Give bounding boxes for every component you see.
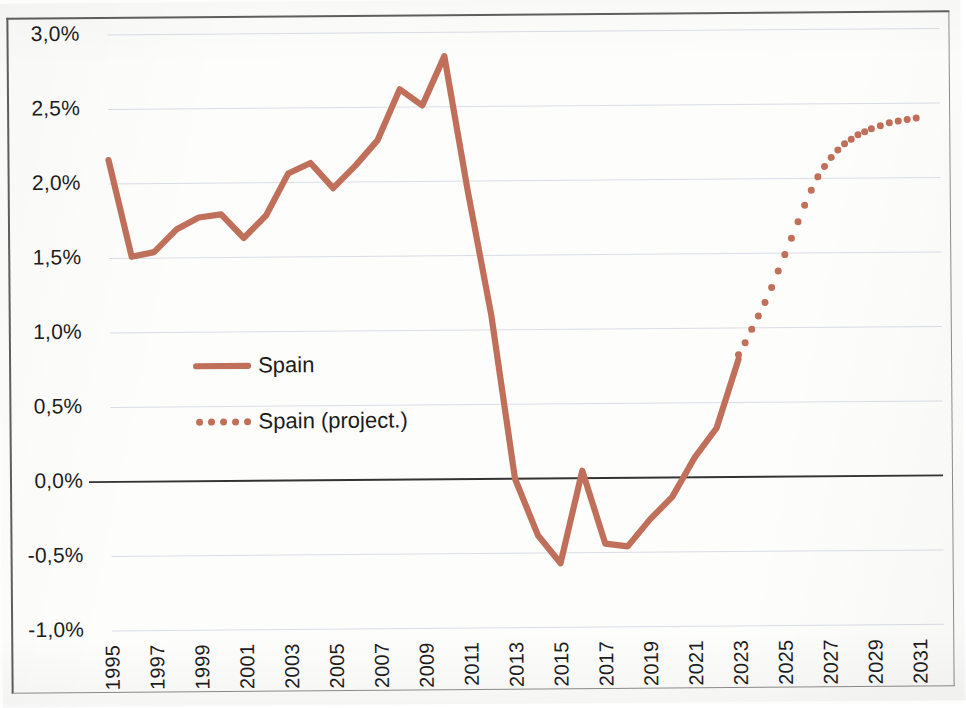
x-axis-tick-label: 2027 xyxy=(819,639,841,684)
legend-swatch-dot xyxy=(232,418,239,425)
projection-dot xyxy=(877,122,884,129)
x-axis-tick-label: 2007 xyxy=(371,643,393,688)
projection-dot xyxy=(886,119,893,126)
x-axis-tick-labels: 1995199719992001200320052007200920112013… xyxy=(101,638,931,690)
chart-figure: 3,0%2,5%2,0%1,5%1,0%0,5%0,0%-0,5%-1,0% 1… xyxy=(0,0,966,708)
legend-swatch-dot xyxy=(208,419,215,426)
legend-label: Spain (project.) xyxy=(258,407,407,433)
x-axis-tick-label: 2029 xyxy=(864,639,886,684)
projection-dot xyxy=(735,351,742,358)
x-axis-tick-label: 2015 xyxy=(550,641,572,686)
projection-dot xyxy=(841,140,848,147)
projection-dot xyxy=(748,326,755,333)
series-spain-projection-dots xyxy=(733,114,921,358)
gridline xyxy=(107,28,939,35)
projection-dot xyxy=(848,136,855,143)
projection-dot xyxy=(828,154,835,161)
projection-dot xyxy=(868,125,875,132)
x-axis-tick-label: 2023 xyxy=(730,640,752,685)
gridline xyxy=(110,401,942,408)
x-axis-tick-label: 2021 xyxy=(685,640,707,685)
projection-dot xyxy=(861,128,868,135)
projection-dot xyxy=(755,312,762,319)
y-axis-tick-label: 1,5% xyxy=(32,245,81,268)
x-axis-tick-label: 2013 xyxy=(505,642,527,687)
series-spain-line xyxy=(108,54,740,567)
y-axis-tick-label: 0,5% xyxy=(34,394,83,417)
x-axis-tick-label: 1999 xyxy=(191,644,213,689)
x-axis-tick-label: 2017 xyxy=(595,641,617,686)
projection-dot xyxy=(742,339,749,346)
line-chart: 3,0%2,5%2,0%1,5%1,0%0,5%0,0%-0,5%-1,0% 1… xyxy=(0,0,966,708)
projection-dot xyxy=(781,251,788,258)
x-axis-tick-label: 2019 xyxy=(640,641,662,686)
x-axis-tick-label: 2025 xyxy=(775,640,797,685)
legend-swatch-dot xyxy=(196,419,203,426)
x-axis-tick-label: 2009 xyxy=(416,642,438,687)
legend-label: Spain xyxy=(258,352,314,377)
y-axis-tick-label: 2,0% xyxy=(32,171,81,194)
gridline xyxy=(112,624,944,631)
projection-dot xyxy=(794,218,801,225)
gridline xyxy=(109,252,941,259)
y-axis-tick-labels: 3,0%2,5%2,0%1,5%1,0%0,5%0,0%-0,5%-1,0% xyxy=(24,22,85,641)
gridline xyxy=(110,326,942,333)
x-axis-tick-label: 2011 xyxy=(460,642,482,686)
projection-dot xyxy=(788,235,795,242)
gridlines-group xyxy=(107,28,944,631)
projection-dot xyxy=(775,268,782,275)
projection-dot xyxy=(913,114,920,121)
x-axis-tick-label: 2031 xyxy=(909,638,931,683)
y-axis-tick-label: -1,0% xyxy=(28,618,84,641)
gridline xyxy=(112,550,944,557)
y-axis-tick-label: 2,5% xyxy=(31,96,80,119)
projection-dot xyxy=(834,146,841,153)
y-axis-tick-label: 1,0% xyxy=(33,320,82,343)
y-axis-tick-label: 3,0% xyxy=(31,22,80,45)
x-axis-tick-label: 2003 xyxy=(281,643,303,688)
series-line-spain xyxy=(108,54,740,567)
gridline xyxy=(108,103,940,110)
legend-swatch-dot xyxy=(220,419,227,426)
projection-dot xyxy=(768,284,775,291)
projection-dot xyxy=(814,173,821,180)
projection-dot xyxy=(821,163,828,170)
x-axis-tick-label: 1995 xyxy=(101,645,123,690)
y-axis-tick-label: -0,5% xyxy=(28,543,84,566)
x-axis-tick-label: 2005 xyxy=(326,643,348,688)
x-axis-tick-label: 1997 xyxy=(146,644,168,689)
projection-dot xyxy=(895,118,902,125)
projection-dot xyxy=(801,202,808,209)
projection-dot xyxy=(808,187,815,194)
chart-legend: SpainSpain (project.) xyxy=(195,351,407,434)
y-axis-tick-label: 0,0% xyxy=(34,469,83,492)
projection-dot xyxy=(761,299,768,306)
projection-dot xyxy=(904,116,911,123)
x-axis-tick-label: 2001 xyxy=(236,644,258,689)
projection-dot xyxy=(854,131,861,138)
legend-swatch-dot xyxy=(244,418,251,425)
